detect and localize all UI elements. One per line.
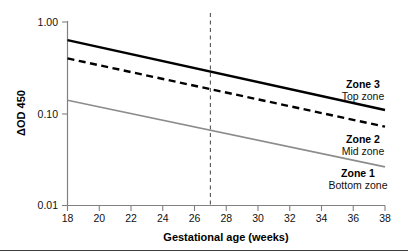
bottom-divider bbox=[0, 250, 408, 251]
x-tick-label-30: 30 bbox=[252, 212, 264, 224]
x-tick-label-38: 38 bbox=[379, 212, 391, 224]
series-line-zone-2 bbox=[68, 58, 386, 126]
x-tick-label-22: 22 bbox=[125, 212, 137, 224]
y-axis-title: ΔOD 450 bbox=[15, 90, 27, 136]
series-label-zone-1: Zone 1 Bottom zone bbox=[329, 167, 388, 191]
y-tick-label-0.01: 0.01 bbox=[38, 199, 59, 211]
y-tick-label-1.00: 1.00 bbox=[38, 16, 59, 28]
zone-1-sublabel: Bottom zone bbox=[329, 179, 388, 191]
zone-3-name: Zone 3 bbox=[346, 78, 380, 90]
zone-2-sublabel: Mid zone bbox=[342, 145, 385, 157]
figure-container: 1.00 0.10 0.01 ΔOD 450 18 20 22 24 26 28… bbox=[0, 0, 408, 252]
x-tick-label-18: 18 bbox=[62, 212, 74, 224]
zone-2-name: Zone 2 bbox=[346, 133, 380, 145]
series-label-zone-3: Zone 3 Top zone bbox=[342, 78, 385, 102]
zone-1-name: Zone 1 bbox=[341, 167, 375, 179]
y-tick-label-0.10: 0.10 bbox=[38, 108, 59, 120]
x-tick-label-28: 28 bbox=[220, 212, 232, 224]
x-axis-title: Gestational age (weeks) bbox=[163, 231, 289, 243]
x-tick-label-32: 32 bbox=[284, 212, 296, 224]
series-line-zone-1 bbox=[68, 100, 386, 167]
x-tick-label-26: 26 bbox=[189, 212, 201, 224]
x-tick-label-24: 24 bbox=[157, 212, 169, 224]
x-tick-label-20: 20 bbox=[93, 212, 105, 224]
x-tick-label-36: 36 bbox=[347, 212, 359, 224]
x-tick-label-34: 34 bbox=[316, 212, 328, 224]
zone-3-sublabel: Top zone bbox=[342, 90, 385, 102]
series-label-zone-2: Zone 2 Mid zone bbox=[342, 133, 385, 157]
line-chart: 1.00 0.10 0.01 ΔOD 450 18 20 22 24 26 28… bbox=[0, 0, 408, 252]
series-line-zone-3 bbox=[68, 40, 386, 110]
